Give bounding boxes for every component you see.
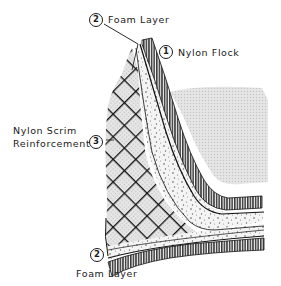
label-foam-layer-bottom: Foam Layer bbox=[76, 268, 138, 280]
leader-line-foam-top bbox=[104, 24, 138, 44]
label-scrim-line2: Reinforcement bbox=[13, 137, 90, 150]
label-scrim-line1: Nylon Scrim bbox=[13, 124, 90, 137]
callout-badge-foam-top: 2 bbox=[89, 13, 103, 27]
callout-badge-nylon-flock: 1 bbox=[159, 45, 173, 59]
label-nylon-scrim-reinforcement: Nylon Scrim Reinforcement bbox=[13, 124, 90, 150]
callout-badge-scrim: 3 bbox=[89, 135, 103, 149]
label-foam-layer-top: Foam Layer bbox=[108, 14, 170, 26]
label-nylon-flock: Nylon Flock bbox=[178, 47, 239, 59]
callout-badge-foam-bottom: 2 bbox=[90, 248, 104, 262]
